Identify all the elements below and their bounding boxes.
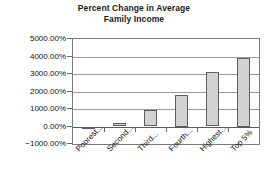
chart-title-line-2: Family Income xyxy=(0,14,268,25)
bar[interactable] xyxy=(237,58,250,126)
y-tick-label: 3000.00% xyxy=(0,69,66,78)
y-tick-label: 2000.00% xyxy=(0,86,66,95)
plot-area xyxy=(72,38,260,145)
gridline xyxy=(73,109,259,110)
gridline xyxy=(73,74,259,75)
x-tick-mark xyxy=(166,127,167,132)
bar[interactable] xyxy=(113,123,126,126)
chart-container: Percent Change in Average Family Income … xyxy=(0,0,268,191)
chart-title: Percent Change in Average Family Income xyxy=(0,3,268,25)
x-tick-mark xyxy=(228,127,229,132)
y-axis: 5000.00%4000.00%3000.00%2000.00%1000.00%… xyxy=(0,38,66,145)
bar[interactable] xyxy=(206,72,219,126)
gridline xyxy=(73,57,259,58)
bar[interactable] xyxy=(144,110,157,126)
y-tick-label: −1000.00% xyxy=(0,139,66,148)
bar[interactable] xyxy=(82,127,95,129)
x-tick-mark xyxy=(104,127,105,132)
gridline xyxy=(73,92,259,93)
y-tick-label: 4000.00% xyxy=(0,51,66,60)
chart-title-line-1: Percent Change in Average xyxy=(0,3,268,14)
x-tick-mark xyxy=(135,127,136,132)
x-tick-mark xyxy=(197,127,198,132)
y-tick-label: 0.00% xyxy=(0,121,66,130)
y-tick-label: 5000.00% xyxy=(0,34,66,43)
y-tick-label: 1000.00% xyxy=(0,104,66,113)
bar[interactable] xyxy=(175,95,188,127)
